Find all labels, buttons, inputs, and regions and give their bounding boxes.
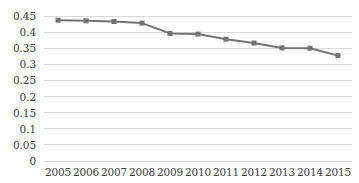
y-axis-tick-label: 0.25: [0, 75, 36, 86]
x-axis-tick-label: 2009: [155, 167, 185, 178]
y-axis-tick-label: 0.35: [0, 43, 36, 54]
data-point-marker: [168, 31, 173, 36]
data-series: [56, 18, 341, 58]
data-point-marker: [112, 19, 117, 24]
y-axis-tick-label: 0.05: [0, 140, 36, 151]
x-axis-tick-label: 2014: [295, 167, 325, 178]
data-point-marker: [196, 32, 201, 37]
y-axis-tick-label: 0.2: [0, 92, 36, 103]
y-axis-tick-label: 0.4: [0, 27, 36, 38]
y-axis-tick-label: 0.15: [0, 108, 36, 119]
y-axis-tick-label: 0: [0, 156, 36, 167]
x-axis-tick-label: 2005: [43, 167, 73, 178]
y-axis-tick-label: 0.3: [0, 59, 36, 70]
series-line: [58, 20, 338, 55]
data-point-marker: [56, 18, 61, 23]
x-axis-tick-label: 2013: [267, 167, 297, 178]
x-axis-tick-label: 2015: [323, 167, 353, 178]
gridlines: [44, 16, 352, 161]
chart-plot-area: [0, 0, 359, 183]
x-axis-tick-label: 2011: [211, 167, 241, 178]
data-point-marker: [336, 53, 341, 58]
x-axis-tick-label: 2006: [71, 167, 101, 178]
data-point-marker: [224, 37, 229, 42]
data-point-marker: [140, 21, 145, 26]
x-axis-tick-label: 2008: [127, 167, 157, 178]
x-axis-tick-label: 2007: [99, 167, 129, 178]
data-point-marker: [308, 46, 313, 51]
y-axis-tick-label: 0.1: [0, 124, 36, 135]
x-axis-tick-label: 2012: [239, 167, 269, 178]
x-axis-tick-label: 2010: [183, 167, 213, 178]
data-point-marker: [252, 41, 257, 46]
line-chart: 00.050.10.150.20.250.30.350.40.45 200520…: [0, 0, 359, 183]
y-axis-tick-label: 0.45: [0, 11, 36, 22]
data-point-marker: [84, 18, 89, 23]
data-point-marker: [280, 45, 285, 50]
